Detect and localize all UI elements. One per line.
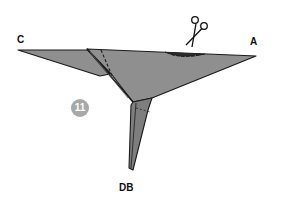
- bottom-leg: [129, 98, 152, 170]
- origami-diagram: C A DB 11: [0, 0, 284, 208]
- step-number: 11: [75, 103, 86, 113]
- corner-label-a: A: [250, 37, 257, 47]
- step-number-badge: 11: [71, 99, 89, 117]
- corner-label-c: C: [17, 35, 24, 45]
- corner-label-db: DB: [119, 183, 133, 193]
- folded-paper-figure: [0, 0, 284, 208]
- scissors-icon: [186, 17, 207, 47]
